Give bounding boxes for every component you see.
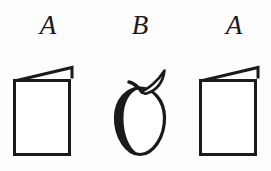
folded-card-icon	[194, 62, 271, 162]
item-label-1: A	[8, 10, 88, 40]
item-label-3: A	[194, 10, 271, 40]
folded-card-icon	[8, 62, 88, 162]
figure-root: A B A	[0, 0, 271, 171]
item-label-2: B	[96, 10, 184, 40]
apple-icon	[96, 62, 184, 162]
figure-item-1: A	[8, 0, 88, 171]
figure-item-2: B	[96, 0, 184, 171]
figure-item-3: A	[194, 0, 271, 171]
